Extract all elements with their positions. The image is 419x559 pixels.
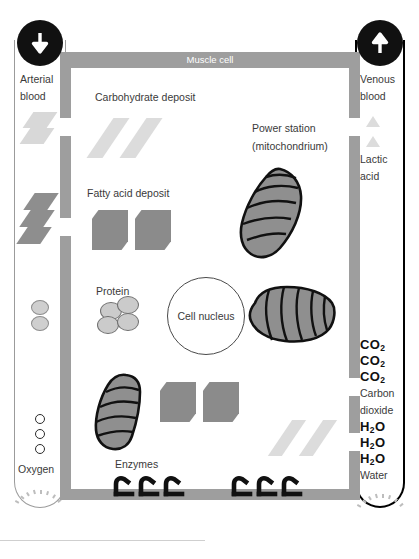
lactic-acid-label-2: acid [360,169,379,183]
artery-capillary-fringe [14,483,66,509]
enzyme-group [110,473,194,503]
oxygen-molecule [35,414,45,424]
water-oxygen: O [375,435,386,450]
enzymes-label: Enzymes [115,457,158,471]
water-hydrogen: H [360,419,370,434]
co2-symbol: CO [360,353,380,368]
arrow-up-icon [357,20,403,66]
water-formula: H2O [360,419,385,435]
carbon-dioxide-label-2: dioxide [360,403,393,417]
arterial-blood-label-2: blood [20,89,46,103]
mitochondrion [92,372,152,456]
enzyme-group [228,473,312,503]
co2-subscript: 2 [380,343,385,353]
water-oxygen: O [375,419,386,434]
oxygen-label: Oxygen [18,462,54,476]
arterial-blood-label-1: Arterial [20,72,53,86]
protein-molecule [97,316,119,334]
carbon-dioxide-formula: CO2 [360,353,385,369]
water-label: Water [360,468,388,482]
mitochondrion [247,283,337,351]
arrow-down-icon [17,20,63,66]
protein-molecule [117,313,139,331]
carbohydrate-deposit-label: Carbohydrate deposit [95,90,195,104]
muscle-cell-label: Muscle cell [60,53,360,67]
vein-capillary-fringe [356,487,408,513]
membrane-channel [349,118,360,136]
artery-protein-particle [31,316,49,331]
venous-blood-label-1: Venous [360,72,395,86]
venous-blood-label-2: blood [360,89,386,103]
fatty-acid-deposit [160,382,196,422]
co2-symbol: CO [360,369,380,384]
cell-nucleus: Cell nucleus [167,277,245,355]
oxygen-molecule [35,429,45,439]
artery-protein-particle [31,300,49,315]
diagram-canvas: Arterial blood Oxygen Venous blood Lacti… [0,0,419,559]
mitochondrion-label-2: (mitochondrium) [252,139,328,153]
oxygen-molecule [35,444,45,454]
carbon-dioxide-formula: CO2 [360,337,385,353]
mitochondrion-label-1: Power station [252,121,316,135]
membrane-channel [349,378,360,396]
mitochondrion [236,166,306,265]
carbon-dioxide-formula: CO2 [360,369,385,385]
cell-nucleus-label: Cell nucleus [168,310,244,322]
membrane-channel [60,218,71,236]
fatty-acid-deposit [135,210,171,250]
lactic-acid-label-1: Lactic [360,152,387,166]
lactic-acid-particle [366,116,380,127]
water-hydrogen: H [360,435,370,450]
fatty-acid-deposit [203,382,239,422]
membrane-channel [349,433,360,451]
footer-divider [0,540,205,541]
membrane-channel [60,118,71,136]
water-oxygen: O [375,451,386,466]
co2-subscript: 2 [380,359,385,369]
water-formula: H2O [360,435,385,451]
lactic-acid-particle [366,136,380,147]
co2-subscript: 2 [380,375,385,385]
co2-symbol: CO [360,337,380,352]
carbon-dioxide-label-1: Carbon [360,386,394,400]
water-hydrogen: H [360,451,370,466]
fatty-acid-deposit [92,210,128,250]
water-formula: H2O [360,451,385,467]
fatty-acid-deposit-label: Fatty acid deposit [87,186,169,200]
protein-molecule [117,296,139,314]
